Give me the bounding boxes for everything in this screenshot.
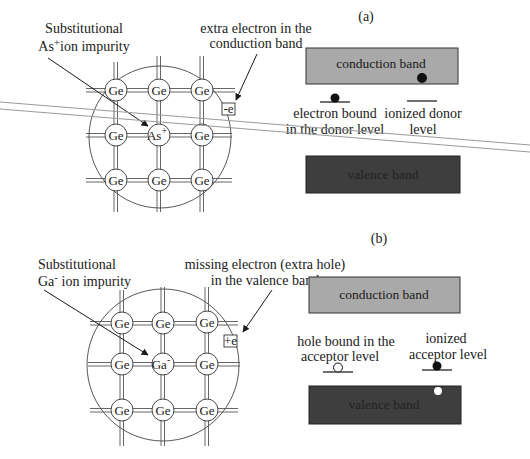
conduction-band-label: conduction band — [339, 287, 429, 302]
svg-text:Ge: Ge — [199, 357, 214, 372]
atom: Ge — [105, 124, 127, 146]
atom: Ge — [191, 124, 213, 146]
donor-bound-caption-line1: electron bound — [293, 106, 377, 121]
ionized-donor-caption-line1: ionized donor — [384, 106, 462, 121]
lattice-atoms: Ge Ge Ge Ge Ga- Ge Ge Ge Ge — [111, 311, 218, 421]
atom: Ge — [111, 399, 133, 421]
carrier-caption-line1: extra electron in the — [200, 21, 312, 36]
extra-hole-box: +e — [224, 333, 237, 348]
hole-bound-caption-line1: hole bound in the — [297, 334, 395, 349]
atom: Ge — [191, 79, 213, 101]
atom: Ge — [196, 311, 218, 333]
atom: Ge — [148, 79, 170, 101]
extra-electron-box: -e — [222, 101, 235, 116]
svg-text:Ge: Ge — [199, 315, 214, 330]
svg-text:Ge: Ge — [114, 403, 129, 418]
panel-a-label: (a) — [358, 9, 374, 25]
atom: Ge — [191, 169, 213, 191]
carrier-caption-line2: in the valence band — [211, 273, 319, 288]
impurity-atom-as: As+ — [147, 124, 170, 146]
svg-text:Ge: Ge — [108, 128, 123, 143]
svg-text:Ge: Ge — [155, 316, 170, 331]
valence-band-label: valence band — [349, 397, 420, 412]
impurity-caption-line2: As+ion impurity — [38, 36, 129, 54]
svg-text:Ge: Ge — [199, 403, 214, 418]
valence-band-label: valence band — [348, 167, 419, 182]
svg-text:-e: -e — [223, 101, 233, 116]
ionized-acceptor-caption-line1: ionized — [425, 331, 466, 346]
svg-text:Ge: Ge — [194, 83, 209, 98]
ionized-acceptor-caption-line2: acceptor level — [409, 347, 487, 362]
atom: Ge — [105, 169, 127, 191]
ionized-acceptor-electron-icon — [433, 362, 442, 371]
svg-text:Ge: Ge — [151, 83, 166, 98]
atom: Ge — [111, 312, 133, 334]
impurity-caption-line2: Ga- ion impurity — [38, 271, 131, 289]
carrier-arrow — [236, 54, 257, 100]
atom: Ge — [111, 353, 133, 375]
atom: Ge — [152, 399, 174, 421]
ionized-donor-caption-line2: level — [409, 122, 436, 137]
bound-electron-icon — [331, 94, 340, 103]
atom: Ge — [196, 353, 218, 375]
band-diagram-a: conduction band electron bound in the do… — [286, 48, 462, 193]
svg-text:Ge: Ge — [155, 403, 170, 418]
panel-b: (b) Substitutional Ga- ion impurity miss… — [38, 231, 487, 446]
bound-hole-icon — [334, 363, 343, 372]
conduction-electron-icon — [417, 73, 427, 83]
hole-bound-caption-line2: acceptor level — [301, 349, 379, 364]
lattice-atoms: Ge Ge Ge Ge As+ Ge Ge Ge Ge — [105, 79, 213, 191]
atom: Ge — [152, 312, 174, 334]
svg-text:Ge: Ge — [108, 173, 123, 188]
svg-text:Ge: Ge — [108, 83, 123, 98]
panel-b-label: (b) — [371, 231, 388, 247]
valence-hole-icon — [434, 387, 442, 395]
atom: Ge — [105, 79, 127, 101]
impurity-caption-line1: Substitutional — [45, 21, 123, 36]
svg-text:Ge: Ge — [194, 173, 209, 188]
impurity-atom-ga: Ga- — [152, 353, 174, 375]
svg-text:Ge: Ge — [151, 173, 166, 188]
carrier-caption-line1: missing electron (extra hole) — [185, 257, 346, 273]
carrier-caption-line2: conduction band — [210, 36, 303, 51]
carrier-arrow — [243, 290, 272, 332]
impurity-caption-line1: Substitutional — [38, 257, 116, 272]
svg-text:Ge: Ge — [114, 357, 129, 372]
atom: Ge — [148, 169, 170, 191]
atom: Ge — [196, 399, 218, 421]
svg-text:+e: +e — [224, 333, 237, 348]
svg-text:Ge: Ge — [114, 316, 129, 331]
semiconductor-doping-figure: (a) Substitutional As+ion impurity extra… — [0, 0, 530, 459]
svg-text:Ge: Ge — [194, 128, 209, 143]
band-diagram-b: conduction band hole bound in the accept… — [297, 277, 487, 424]
conduction-band-label: conduction band — [336, 56, 426, 71]
